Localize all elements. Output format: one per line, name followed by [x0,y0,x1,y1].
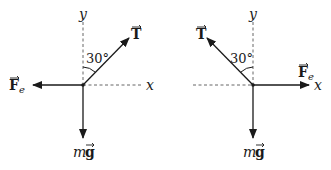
free-body-diagrams: y x 30° T F e m g y x 30 [0,0,331,170]
angle-label: 30° [230,51,253,66]
right-diagram: y x 30° T F e m g [193,6,322,160]
svg-text:T: T [196,26,207,42]
angle-label: 30° [86,51,109,66]
y-axis-label: y [248,6,258,22]
gravity-label: m g [243,143,265,160]
x-axis-label: x [314,77,322,93]
angle-arc [83,67,95,72]
svg-text:e: e [308,71,314,82]
svg-text:T: T [131,26,142,42]
angle-arc [241,67,253,72]
tension-label: T [196,25,207,42]
origin-point [251,83,255,87]
svg-text:g: g [255,144,265,160]
svg-text:g: g [85,144,95,160]
origin-point [81,83,85,87]
gravity-label: m g [73,143,95,160]
svg-text:e: e [19,84,25,95]
x-axis-label: x [146,77,154,93]
left-diagram: y x 30° T F e m g [9,6,154,160]
y-axis-label: y [78,6,88,22]
electric-force-label: F e [9,76,25,95]
tension-label: T [131,25,142,42]
electric-force-label: F e [298,63,314,82]
